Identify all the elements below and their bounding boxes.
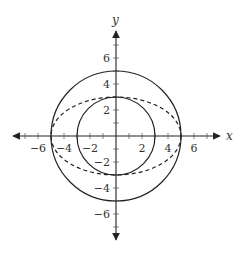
x-tick-label: 2	[139, 142, 146, 155]
x-tick-label: −6	[30, 142, 46, 155]
y-tick-label: 4	[103, 78, 110, 91]
x-tick-label: −2	[82, 142, 98, 155]
axes: −6−4−2246−6−4−2246 x y	[13, 13, 233, 240]
coordinate-plot: −6−4−2246−6−4−2246 x y	[0, 0, 242, 253]
y-tick-label: 2	[103, 104, 110, 117]
y-tick-label: −2	[94, 156, 110, 169]
y-tick-label: −4	[94, 182, 110, 195]
x-tick-label: −4	[56, 142, 72, 155]
y-axis-label: y	[111, 13, 119, 27]
y-tick-label: −6	[94, 208, 110, 221]
x-tick-label: 6	[191, 142, 198, 155]
y-tick-label: 6	[103, 52, 110, 65]
x-tick-label: 4	[165, 142, 172, 155]
x-axis-label: x	[226, 129, 233, 143]
